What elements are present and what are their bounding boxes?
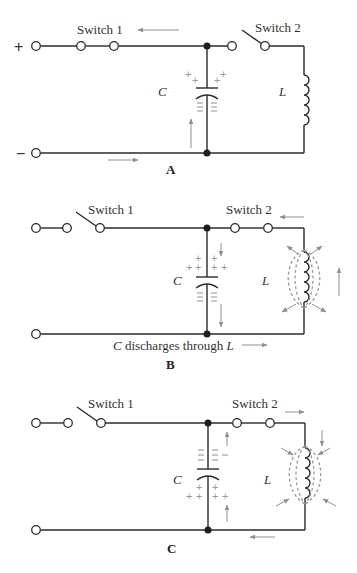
svg-text:+: + <box>186 261 192 273</box>
magnetic-field-lines <box>276 446 336 506</box>
switch1-label: Switch 1 <box>77 22 123 37</box>
capacitor-label: C <box>173 472 182 487</box>
inductor-label: L <box>261 273 269 288</box>
svg-text:+: + <box>222 490 228 502</box>
panel-caption: A <box>166 162 176 177</box>
capacitor-label: C <box>158 84 167 99</box>
svg-text:+: + <box>186 490 192 502</box>
lc-circuit-figure: + − Switch 1 Switch 2 + + + <box>0 0 357 573</box>
svg-text:+: + <box>221 261 227 273</box>
inductor-coil <box>305 448 310 498</box>
panel-c: Switch 1 Switch 2 + + + + + + C <box>32 396 336 556</box>
minus-terminal-label: − <box>16 145 25 162</box>
input-terminal-plus <box>32 42 41 51</box>
panel-b: Switch 1 Switch 2 + + + + + + C <box>32 202 339 372</box>
svg-text:+: + <box>212 490 218 502</box>
plus-terminal-label: + <box>14 38 23 55</box>
switch2-label: Switch 2 <box>232 396 278 411</box>
discharge-note: C discharges through L <box>113 338 234 353</box>
svg-text:+: + <box>220 68 226 80</box>
input-terminal-minus <box>32 149 41 158</box>
svg-text:+: + <box>211 261 217 273</box>
switch1-label: Switch 1 <box>88 396 134 411</box>
inductor-coil <box>304 75 309 125</box>
switch2-label: Switch 2 <box>226 202 272 217</box>
switch2-label: Switch 2 <box>255 20 301 35</box>
inductor-label: L <box>278 84 286 99</box>
svg-text:+: + <box>192 74 198 86</box>
inductor-label: L <box>263 472 271 487</box>
svg-text:+: + <box>195 261 201 273</box>
switch1-label: Switch 1 <box>88 202 134 217</box>
svg-text:+: + <box>196 490 202 502</box>
svg-text:+: + <box>185 68 191 80</box>
capacitor-label: C <box>173 273 182 288</box>
panel-caption: B <box>166 357 175 372</box>
panel-a: + − Switch 1 Switch 2 + + + <box>14 20 309 177</box>
panel-caption: C <box>167 541 176 556</box>
inductor-coil <box>304 252 309 302</box>
